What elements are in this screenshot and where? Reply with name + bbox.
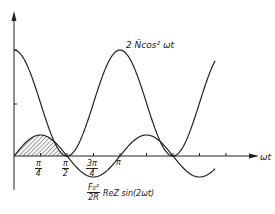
tick-label-pi-4: π 4: [35, 159, 42, 178]
tick-label-3pi-4: 3π 4: [86, 159, 98, 178]
diagram-canvas: [0, 0, 275, 214]
tick-label-pi-2: π 2: [62, 159, 69, 178]
tick-label-pi: π: [116, 158, 121, 167]
y-axis: [12, 11, 18, 190]
hatched-area: [14, 135, 67, 156]
sin-curve-label-fraction: F₀² 2R: [87, 183, 100, 202]
cos2-curve-label: 2 N̄cos² ωt: [126, 40, 174, 50]
x-axis-label: ωt: [260, 152, 271, 162]
sin-curve-label: ReZ sin(2ωt): [103, 189, 154, 198]
